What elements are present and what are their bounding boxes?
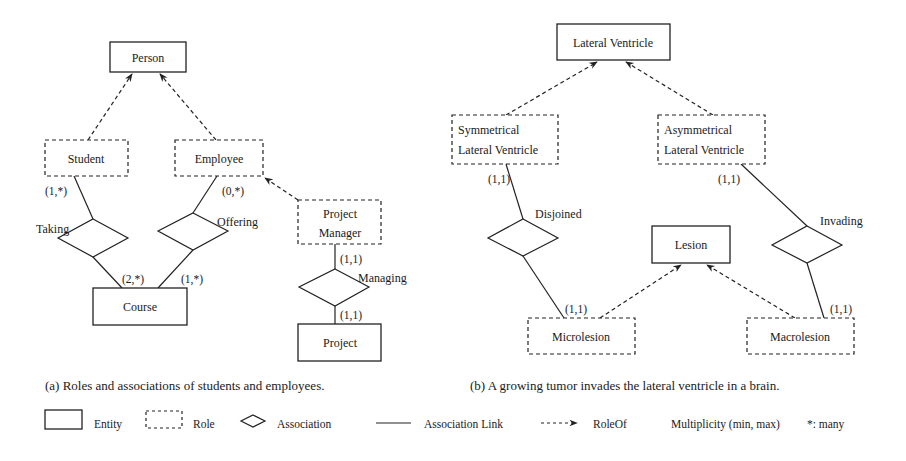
legend-role-label: Role — [193, 418, 215, 430]
role-label: Manager — [319, 226, 362, 240]
entity-label: Lateral Ventricle — [573, 36, 653, 50]
role-macrolesion: Macrolesion — [747, 318, 854, 354]
link-invading-macro — [807, 263, 824, 318]
link-asym-invading — [741, 164, 807, 226]
association-label: Taking — [36, 222, 69, 236]
role-project-manager: Project Manager — [298, 200, 381, 244]
entity-person: Person — [110, 42, 186, 72]
legend-association-link-label: Association Link — [424, 418, 503, 430]
legend-association-label: Association — [277, 418, 332, 430]
er-diagram-figure: Person Course Project Student Employee P… — [0, 0, 906, 461]
link-student-taking — [74, 176, 93, 219]
multiplicity-label: (1,*) — [45, 185, 67, 198]
legend-roleof-label: RoleOf — [593, 418, 627, 430]
association-managing: Managing — [299, 269, 407, 306]
association-offering: Offering — [158, 213, 258, 250]
role-asymmetrical-lateral-ventricle: Asymmetrical Lateral Ventricle — [658, 115, 765, 164]
entity-label: Course — [123, 300, 157, 314]
multiplicity-label: (1,1) — [565, 303, 587, 316]
roleof-macro-lesion — [707, 265, 795, 318]
roleof-employee-person — [160, 74, 216, 140]
role-label: Macrolesion — [770, 330, 830, 344]
entity-label: Person — [132, 51, 165, 65]
link-employee-offering — [193, 176, 217, 213]
link-taking-course — [93, 257, 122, 288]
entity-label: Project — [323, 336, 358, 350]
role-label: Asymmetrical — [664, 123, 733, 137]
caption-b: (b) A growing tumor invades the lateral … — [470, 378, 779, 393]
multiplicity-label: (1,1) — [830, 303, 852, 316]
legend-multiplicity-label: Multiplicity (min, max) — [671, 418, 780, 431]
legend-many-label: *: many — [807, 418, 845, 431]
association-disjoined: Disjoined — [488, 207, 582, 256]
entity-project: Project — [298, 324, 381, 361]
association-label: Managing — [358, 271, 407, 285]
association-invading: Invading — [772, 214, 863, 263]
entity-label: Lesion — [675, 238, 708, 252]
role-label: Lateral Ventricle — [664, 143, 744, 157]
role-employee: Employee — [175, 140, 263, 176]
roleof-sym-lv — [506, 62, 597, 115]
roleof-student-person — [88, 74, 132, 140]
multiplicity-label: (1,1) — [718, 173, 740, 186]
entity-lesion: Lesion — [652, 226, 730, 263]
legend-role-icon — [146, 411, 182, 428]
role-label: Microlesion — [552, 330, 610, 344]
role-label: Student — [68, 152, 105, 166]
roleof-micro-lesion — [600, 265, 681, 318]
link-disjoined-micro — [523, 256, 564, 318]
role-symmetrical-lateral-ventricle: Symmetrical Lateral Ventricle — [452, 115, 558, 164]
figure-a: Person Course Project Student Employee P… — [36, 42, 407, 361]
legend-entity-label: Entity — [94, 418, 122, 431]
multiplicity-label: (1,1) — [488, 173, 510, 186]
roleof-asym-lv — [626, 62, 713, 115]
multiplicity-label: (2,*) — [122, 273, 144, 286]
role-label: Project — [323, 207, 358, 221]
role-microlesion: Microlesion — [528, 318, 635, 354]
association-label: Offering — [217, 215, 258, 229]
entity-course: Course — [93, 288, 187, 325]
role-label: Lateral Ventricle — [458, 143, 538, 157]
figure-b: Lateral Ventricle Lesion Symmetrical Lat… — [452, 24, 863, 354]
multiplicity-label: (1,*) — [181, 273, 203, 286]
association-label: Invading — [820, 214, 863, 228]
multiplicity-label: (1,1) — [340, 253, 362, 266]
role-label: Symmetrical — [458, 123, 520, 137]
role-label: Employee — [195, 152, 244, 166]
entity-lateral-ventricle: Lateral Ventricle — [557, 24, 670, 60]
association-taking: Taking — [36, 219, 128, 257]
legend-association-icon — [241, 415, 265, 427]
legend: Entity Role Association Association Link… — [45, 410, 845, 431]
roleof-pm-employee — [265, 178, 298, 200]
role-student: Student — [45, 140, 128, 176]
multiplicity-label: (0,*) — [222, 185, 244, 198]
association-label: Disjoined — [535, 207, 582, 221]
legend-entity-icon — [45, 410, 82, 429]
multiplicity-label: (1,1) — [340, 309, 362, 322]
caption-a: (a) Roles and associations of students a… — [45, 378, 324, 393]
